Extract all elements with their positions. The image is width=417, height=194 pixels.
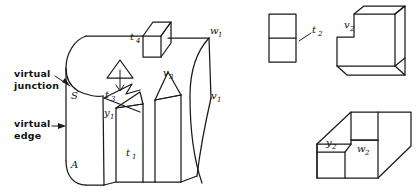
t4-box-right-face [161,22,171,57]
t4-box-top-face [143,22,171,36]
side-object-v2-L-block: v 2 [337,6,405,75]
annotation-virtual-edge: virtual edge [14,118,66,141]
line-drawing-figure: virtual junction virtual edge S A t 4 t … [0,0,417,194]
label-t4-sub: 4 [135,37,140,45]
label-y2-base: y [325,137,332,148]
label-y2: y 2 [325,137,337,151]
main-object-slotted-curved-block [66,22,211,185]
virtual-junction-label-line1: virtual [14,68,51,79]
virtual-edge-label-line1: virtual [14,118,51,129]
label-w2: w 2 [357,143,370,157]
label-t2-sub: 2 [317,30,323,38]
label-y1: y 1 [103,107,114,121]
label-v1-sub: 1 [217,96,221,104]
fin-v3-outline [155,95,181,182]
label-t1-base: t [126,147,131,158]
fin-t1-outline [116,104,143,182]
label-S: S [71,90,78,101]
label-t3-sub: 3 [111,95,116,103]
side-object-stepped-block: y 2 w 2 [317,112,411,178]
fin-t1-base-connector [104,182,116,185]
label-y2-sub: 2 [331,143,337,151]
label-v2-sub: 2 [349,25,355,33]
stepped-block-left-square-bevel [345,144,351,152]
virtual-edge-label-line2: edge [14,130,41,141]
label-t2-base: t [312,24,317,35]
label-w2-sub: 2 [364,149,370,157]
label-t3-base: t [105,89,110,100]
right-base-connector [181,176,197,182]
label-t3: t 3 [105,89,116,103]
label-v3-sub: 3 [169,73,174,81]
top-small-box-t4 [143,22,171,57]
side-object-t2-split-rectangle: t 2 [269,14,323,62]
label-w1-sub: 1 [218,31,222,39]
annotation-virtual-junction: virtual junction [13,68,70,91]
virtual-junction-label-line2: junction [13,80,59,91]
v2-bottom-face [337,66,405,75]
virtual-edge-arrowhead [58,123,66,129]
label-t4: t 4 [130,31,140,45]
label-v2: v 2 [344,19,355,33]
label-v1: v 1 [211,90,221,104]
t4-box-front-face [143,36,161,57]
top-face-outline [66,36,86,91]
label-y1-sub: 1 [110,113,114,121]
stepped-block-left-square-face [317,152,345,178]
label-t1-sub: 1 [132,153,136,161]
t2-leader-line [299,33,311,41]
right-vertical-edge [209,38,211,98]
inner-right-curve [197,98,211,176]
label-y1-base: y [103,107,110,118]
interior-concave-contour [78,91,103,96]
main-object-labels: S A t 4 t 3 t 1 y 1 v 3 [70,25,222,170]
label-t2: t 2 [312,24,323,38]
t3-triangle-arrow-glyph [107,60,133,91]
figure-canvas: virtual junction virtual edge S A t 4 t … [0,0,417,194]
label-w1: w 1 [210,25,222,39]
label-A: A [70,159,78,170]
label-t1: t 1 [126,147,136,161]
fin-v3-inner-line [155,95,181,100]
v2-right-face [395,6,405,66]
